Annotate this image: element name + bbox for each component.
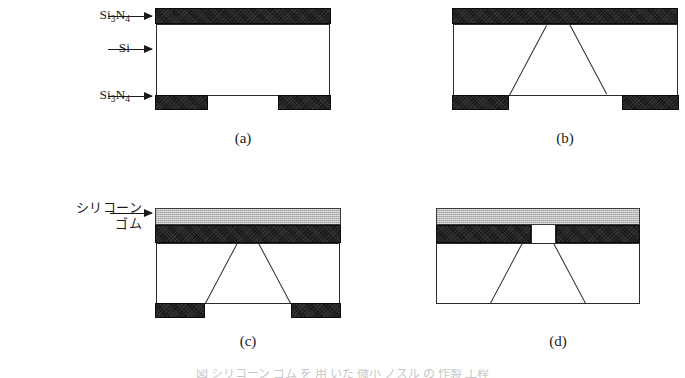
label-top-nitride-text: Si3N4	[99, 7, 130, 22]
panel-b-top-nitride	[452, 8, 678, 24]
panel-c-right-wall	[339, 243, 340, 304]
arrow-silicone-rubber	[110, 213, 152, 214]
panel-b-left-wall	[453, 24, 454, 96]
panel-d-top-nitride-right	[556, 225, 640, 243]
figure-bottom-caption-text: 図 シリコーン ゴム を 用 いた 微小 ノズル の 作製 工程	[0, 369, 685, 378]
panel-d-bottom-left-edge	[436, 303, 490, 304]
panel-b-bottom-nitride-left	[452, 95, 509, 110]
arrow-top-nitride	[108, 16, 152, 17]
panel-c-caption: (c)	[218, 333, 278, 350]
panel-d-top-nitride-left	[436, 225, 531, 243]
label-silicone-rubber: シリコーン ゴム	[12, 200, 142, 233]
process-flow-figure: Si3N4 Si Si3N4 シリコーン ゴム (a)	[0, 0, 685, 378]
panel-d-left-wall	[436, 243, 437, 304]
panel-d-bottom-right-edge	[586, 303, 640, 304]
panel-d-cavity-fill	[437, 244, 639, 303]
panel-d-hole-left-wall	[531, 225, 532, 244]
panel-c-bottom-nitride-left	[155, 303, 205, 318]
figure-bottom-caption: 図 シリコーン ゴム を 用 いた 微小 ノズル の 作製 工程	[0, 369, 685, 378]
label-bottom-nitride-text: Si3N4	[99, 87, 130, 102]
panel-a-silicon-body	[156, 24, 330, 96]
arrow-bottom-nitride	[108, 96, 152, 97]
panel-c-bottom-nitride-right	[291, 303, 341, 318]
panel-c-top-nitride	[155, 225, 341, 243]
label-silicon-text: Si	[119, 40, 130, 55]
panel-b-caption: (b)	[535, 130, 595, 147]
panel-b-bottom-nitride-right	[622, 95, 679, 110]
panel-c-left-wall	[156, 243, 157, 304]
panel-a-bottom-nitride-right	[278, 95, 331, 110]
panel-d-silicone-rubber	[436, 208, 640, 225]
label-silicone-rubber-line2: ゴム	[12, 216, 142, 232]
panel-c-cavity-fill	[157, 244, 339, 303]
panel-a-top-nitride	[155, 8, 331, 24]
panel-c-silicone-rubber	[155, 208, 341, 225]
panel-b-cavity-fill	[454, 25, 677, 95]
panel-d-caption: (d)	[528, 333, 588, 350]
panel-d-right-wall	[639, 243, 640, 304]
panel-a-caption: (a)	[213, 130, 273, 147]
panel-b-right-wall	[677, 24, 678, 96]
panel-d-hole-right-wall	[555, 225, 556, 244]
panel-a-bottom-nitride-left	[155, 95, 208, 110]
arrow-silicon	[108, 49, 152, 50]
